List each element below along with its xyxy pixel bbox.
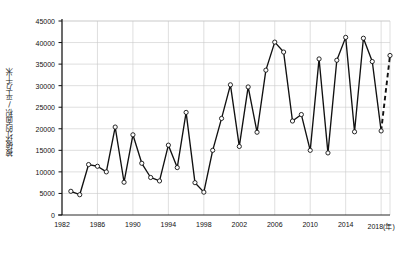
data-point-marker <box>78 193 82 197</box>
data-point-marker <box>344 35 348 39</box>
data-series <box>71 37 390 194</box>
data-point-marker <box>282 50 286 54</box>
data-point-marker <box>211 148 215 152</box>
data-point-marker <box>122 180 126 184</box>
data-point-marker <box>246 85 250 89</box>
data-point-marker <box>361 36 365 40</box>
data-point-marker <box>184 110 188 114</box>
data-point-marker <box>86 162 90 166</box>
data-point-marker <box>149 175 153 179</box>
data-point-marker <box>273 40 277 44</box>
data-point-marker <box>175 165 179 169</box>
data-point-marker <box>157 179 161 183</box>
data-point-marker <box>166 143 170 147</box>
data-point-marker <box>202 190 206 194</box>
data-point-marker <box>308 148 312 152</box>
data-point-marker <box>352 130 356 134</box>
data-point-marker <box>326 151 330 155</box>
data-point-marker <box>255 130 259 134</box>
data-point-marker <box>113 125 117 129</box>
data-point-marker <box>219 116 223 120</box>
data-point-marker <box>140 161 144 165</box>
data-point-marker <box>193 181 197 185</box>
series-line-1 <box>381 55 390 130</box>
chart-container: 被破坏的面积/平方千米 0500010000150002000025000300… <box>0 0 408 267</box>
data-point-marker <box>237 144 241 148</box>
data-point-markers <box>69 35 392 197</box>
data-point-marker <box>335 58 339 62</box>
axis-lines <box>58 19 390 215</box>
data-point-marker <box>95 164 99 168</box>
data-point-marker <box>290 119 294 123</box>
data-point-marker <box>228 83 232 87</box>
data-point-marker <box>379 129 383 133</box>
data-point-marker <box>104 170 108 174</box>
plot-area <box>0 0 408 267</box>
data-point-marker <box>264 68 268 72</box>
data-point-marker <box>388 53 392 57</box>
data-point-marker <box>69 189 73 193</box>
data-point-marker <box>131 133 135 137</box>
data-point-marker <box>299 112 303 116</box>
data-point-marker <box>370 59 374 63</box>
data-point-marker <box>317 57 321 61</box>
